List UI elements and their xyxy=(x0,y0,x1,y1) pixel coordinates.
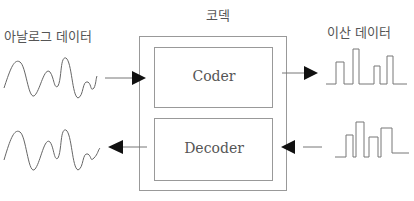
codec-outer-box xyxy=(140,37,287,191)
digital-data-label: 이산 데이터 xyxy=(327,22,391,41)
coder-label: Coder xyxy=(155,68,273,84)
arrow-left-icon xyxy=(281,140,295,154)
digital-pulse-top xyxy=(326,49,407,84)
digital-pulse-bottom xyxy=(335,122,409,157)
codec-label: 코덱 xyxy=(206,5,230,24)
arrow-right-icon xyxy=(304,66,318,80)
decoder-label: Decoder xyxy=(155,140,273,156)
analog-data-label: 아날로그 데이터 xyxy=(4,26,92,45)
arrow-left-icon xyxy=(108,140,123,154)
analog-wave-bottom xyxy=(4,130,100,170)
analog-wave-top xyxy=(4,58,97,98)
